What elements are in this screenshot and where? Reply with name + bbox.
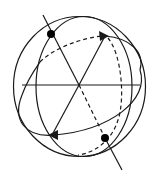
tilted-circle-back-right	[105, 36, 141, 70]
pole-dot-top	[47, 30, 55, 38]
arrow-bottom-left-icon	[48, 130, 58, 140]
pole-dot-bottom	[101, 134, 109, 142]
hidden-meridian	[78, 38, 122, 155]
radius-to-bottom-arrow	[52, 85, 79, 135]
tilted-circle-back	[40, 36, 105, 62]
radius-to-top-arrow	[79, 36, 105, 85]
arrow-top-right-icon	[99, 31, 109, 41]
sphere-diagram	[0, 0, 155, 178]
